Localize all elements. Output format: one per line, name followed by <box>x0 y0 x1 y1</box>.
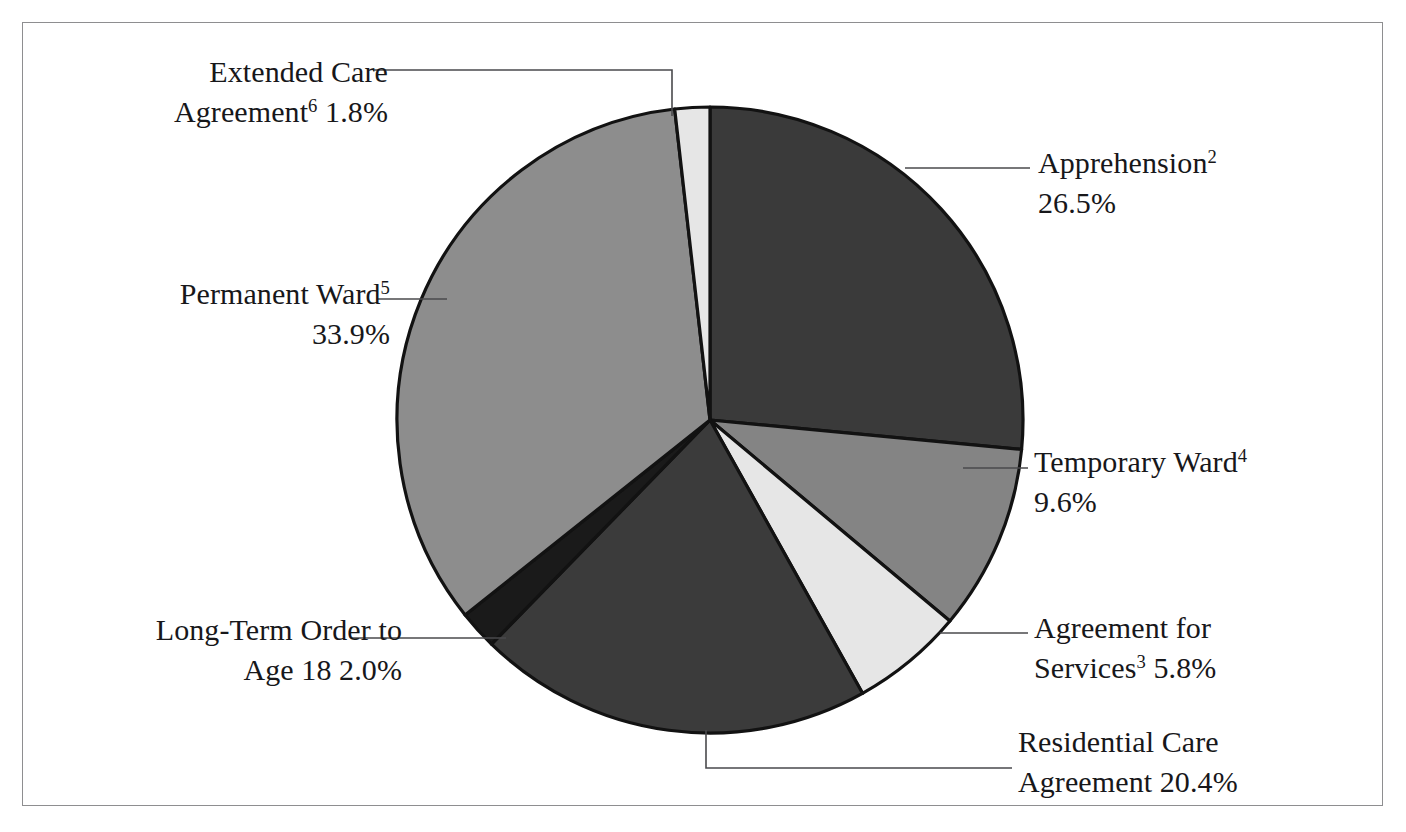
pie-slice-apprehension <box>710 107 1023 449</box>
label-permanent-ward-line1: Permanent Ward <box>180 277 381 310</box>
pie-chart-page: Extended CareAgreement6 1.8% Apprehensio… <box>0 0 1406 832</box>
footnote-marker-2: 2 <box>1208 146 1217 167</box>
label-permanent-ward: Permanent Ward533.9% <box>60 274 390 354</box>
label-long-term-line1: Long-Term Order to <box>156 613 402 646</box>
pie-slices <box>397 107 1023 733</box>
footnote-marker-4: 4 <box>1238 445 1247 466</box>
label-services-line1: Agreement for <box>1034 611 1211 644</box>
label-long-term-order: Long-Term Order toAge 18 2.0% <box>42 610 402 690</box>
label-long-term-value: Age 18 2.0% <box>243 653 402 686</box>
footnote-marker-5: 5 <box>381 277 390 298</box>
label-extended-care-value: 1.8% <box>318 95 389 128</box>
label-permanent-ward-value: 33.9% <box>312 317 390 350</box>
label-apprehension-value: 26.5% <box>1038 186 1116 219</box>
label-residential-care-agreement: Residential CareAgreement 20.4% <box>1018 722 1358 802</box>
label-agreement-for-services: Agreement forServices3 5.8% <box>1034 608 1334 688</box>
leader-residential-care <box>706 730 1012 768</box>
footnote-marker-6: 6 <box>308 95 317 116</box>
footnote-marker-3: 3 <box>1136 651 1145 672</box>
label-residential-value: Agreement 20.4% <box>1018 765 1238 798</box>
label-temporary-ward: Temporary Ward49.6% <box>1034 442 1344 522</box>
label-extended-care-agreement: Extended CareAgreement6 1.8% <box>98 52 388 132</box>
label-apprehension: Apprehension226.5% <box>1038 143 1338 223</box>
label-apprehension-line1: Apprehension <box>1038 146 1208 179</box>
label-temporary-ward-value: 9.6% <box>1034 485 1097 518</box>
label-extended-care-line1: Extended Care <box>209 55 388 88</box>
label-residential-line1: Residential Care <box>1018 725 1219 758</box>
label-extended-care-line2: Agreement <box>174 95 308 128</box>
label-services-line2: Services <box>1034 651 1136 684</box>
label-temporary-ward-line1: Temporary Ward <box>1034 445 1238 478</box>
label-services-value: 5.8% <box>1146 651 1217 684</box>
leader-extended-care <box>373 70 672 116</box>
